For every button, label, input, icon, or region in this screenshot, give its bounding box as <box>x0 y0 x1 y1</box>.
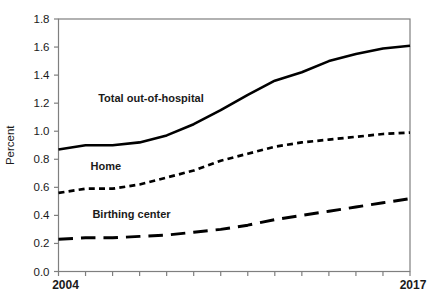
y-tick-label: 1.2 <box>34 97 50 109</box>
x-tick-label-2004: 2004 <box>52 278 79 292</box>
y-tick-label: 1.6 <box>34 41 50 53</box>
y-tick-label: 0.4 <box>34 209 51 221</box>
series-label-home: Home <box>91 160 122 172</box>
y-tick-label: 1.0 <box>34 125 50 137</box>
y-tick-label: 0.6 <box>34 181 50 193</box>
out-of-hospital-births-line-chart: 0.00.20.40.60.81.01.21.41.61.820042017Pe… <box>0 0 443 304</box>
series-label-total-out-of-hospital: Total out-of-hospital <box>98 92 204 104</box>
y-tick-label: 1.4 <box>34 69 51 81</box>
chart-canvas: 0.00.20.40.60.81.01.21.41.61.820042017Pe… <box>0 0 443 304</box>
y-axis-title: Percent <box>4 125 16 165</box>
series-label-birthing-center: Birthing center <box>92 208 171 220</box>
y-tick-label: 1.8 <box>34 13 50 25</box>
y-tick-label: 0.8 <box>34 153 50 165</box>
y-tick-label: 0.2 <box>34 237 50 249</box>
y-tick-label: 0.0 <box>34 266 50 278</box>
x-tick-label-2017: 2017 <box>400 278 427 292</box>
